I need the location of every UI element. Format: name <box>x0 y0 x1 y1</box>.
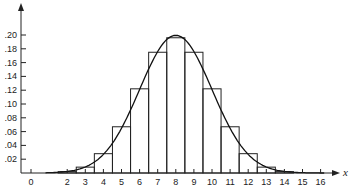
histogram-bar <box>131 89 149 173</box>
binomial-histogram-chart: .02.04.06.08.10.12.14.16.18.20 023456789… <box>0 0 358 191</box>
y-tick-label: .16 <box>4 58 17 68</box>
histogram-bar <box>221 127 239 173</box>
histogram-bars <box>58 38 293 173</box>
x-tick-label: 15 <box>297 177 307 187</box>
x-tick-label: 8 <box>173 177 178 187</box>
y-axis: .02.04.06.08.10.12.14.16.18.20 <box>4 3 26 173</box>
y-tick-label: .06 <box>4 127 17 137</box>
x-tick-label: 7 <box>155 177 160 187</box>
y-tick-label: .04 <box>4 140 17 150</box>
x-tick-label: 0 <box>28 177 33 187</box>
y-tick-label: .10 <box>4 99 17 109</box>
x-tick-label: 13 <box>261 177 271 187</box>
y-tick-label: .20 <box>4 30 17 40</box>
histogram-bar <box>185 52 203 173</box>
x-tick-label: 9 <box>191 177 196 187</box>
x-axis-label: x <box>342 166 348 178</box>
y-tick-label: .08 <box>4 113 17 123</box>
y-tick-label: .18 <box>4 44 17 54</box>
y-tick-label: .14 <box>4 71 17 81</box>
x-tick-label: 4 <box>101 177 106 187</box>
y-tick-label: .02 <box>4 154 17 164</box>
x-tick-label: 12 <box>243 177 253 187</box>
x-tick-label: 5 <box>119 177 124 187</box>
x-axis-arrow-icon <box>332 170 340 176</box>
histogram-bar <box>203 89 221 173</box>
x-tick-label: 6 <box>137 177 142 187</box>
x-tick-label: 14 <box>279 177 289 187</box>
x-tick-label: 2 <box>65 177 70 187</box>
x-tick-label: 11 <box>225 177 234 187</box>
y-axis-arrow-icon <box>18 3 24 11</box>
x-tick-label: 3 <box>83 177 88 187</box>
x-tick-label: 10 <box>207 177 217 187</box>
y-tick-label: .12 <box>4 85 17 95</box>
histogram-bar <box>167 38 185 173</box>
histogram-bar <box>149 52 167 173</box>
histogram-bar <box>112 127 130 173</box>
x-tick-label: 16 <box>316 177 326 187</box>
